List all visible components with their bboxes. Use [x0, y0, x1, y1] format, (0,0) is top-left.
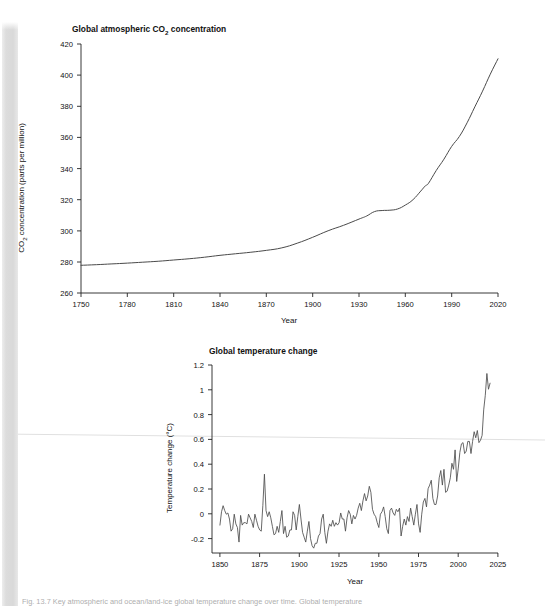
- chart-co2-xlabel: Year: [281, 316, 298, 325]
- x-tick-1810: 1810: [165, 300, 182, 309]
- chart-temp-x-tick-labels: 1850 1875 1900 1925 1950 1975 2000 2025: [211, 560, 506, 569]
- y-tick-300: 300: [60, 227, 73, 236]
- x-tick-2020: 2020: [490, 300, 507, 309]
- chart-temp-y-tick-labels: 1.2 1 0.8 0.6 0.4 0.2 0 -0.2: [191, 361, 204, 544]
- x-tick-1925: 1925: [331, 560, 348, 569]
- y-tick-340: 340: [60, 165, 73, 174]
- chart-temp-y-ticks: [208, 365, 212, 539]
- chart-temp-ylabel: Temperature change (°C): [165, 423, 174, 513]
- figure-caption: Fig. 13.7 Key atmospheric and ocean/land…: [22, 598, 522, 606]
- y-tick-1p2: 1.2: [193, 361, 204, 370]
- chart-co2-title: Global atmospheric CO2 concentration: [72, 24, 226, 36]
- y-tick-0p0: 0: [200, 510, 204, 519]
- chart-co2-y-ticks: [77, 44, 81, 293]
- x-tick-1990: 1990: [443, 300, 460, 309]
- y-tick-320: 320: [60, 196, 73, 205]
- y-tick-420: 420: [60, 40, 73, 49]
- chart-co2-x-ticks: [81, 293, 498, 297]
- chart-co2-series-line: [81, 59, 498, 266]
- y-tick-1p0: 1: [200, 386, 204, 395]
- chart-temp-x-axis: 1850 1875 1900 1925 1950 1975 2000 2025 …: [211, 553, 506, 586]
- x-tick-2025: 2025: [489, 560, 506, 569]
- chart-temp-x-ticks: [220, 553, 498, 557]
- x-tick-1850: 1850: [211, 560, 228, 569]
- chart-co2-concentration: Global atmospheric CO2 concentration CO2…: [0, 18, 545, 328]
- y-tick-0p6: 0.6: [193, 435, 204, 444]
- x-tick-1900: 1900: [291, 560, 308, 569]
- y-tick-0p8: 0.8: [193, 411, 204, 420]
- chart-temperature-change: Global temperature change Temperature ch…: [150, 340, 545, 598]
- figure-caption-text: Fig. 13.7 Key atmospheric and ocean/land…: [22, 598, 522, 606]
- y-tick-260: 260: [60, 289, 73, 298]
- chart-co2-x-axis: 1750 1780 1810 1840 1870 1900 1930 1960 …: [73, 293, 507, 325]
- chart-temp-xlabel: Year: [347, 577, 364, 586]
- y-tick-0p4: 0.4: [193, 460, 204, 469]
- y-tick-360: 360: [60, 133, 73, 142]
- chart-co2-y-tick-labels: 420 400 380 360 340 320 300 280 260: [60, 40, 73, 298]
- page-canvas: Global atmospheric CO2 concentration CO2…: [0, 0, 545, 606]
- x-tick-1975: 1975: [410, 560, 427, 569]
- chart-temp-y-axis: 1.2 1 0.8 0.6 0.4 0.2 0 -0.2: [191, 361, 212, 553]
- y-tick-280: 280: [60, 258, 73, 267]
- x-tick-1960: 1960: [397, 300, 414, 309]
- y-tick-400: 400: [60, 71, 73, 80]
- x-tick-1780: 1780: [119, 300, 136, 309]
- y-tick-380: 380: [60, 102, 73, 111]
- x-tick-1840: 1840: [212, 300, 229, 309]
- chart-co2-y-axis: 420 400 380 360 340 320 300 280 260: [60, 40, 81, 298]
- chart-co2-ylabel: CO2 concentration (parts per million): [17, 123, 28, 253]
- x-tick-1900: 1900: [304, 300, 321, 309]
- y-tick-0p2: 0.2: [193, 485, 204, 494]
- chart-co2-x-tick-labels: 1750 1780 1810 1840 1870 1900 1930 1960 …: [73, 300, 507, 309]
- x-tick-1950: 1950: [370, 560, 387, 569]
- x-tick-1870: 1870: [258, 300, 275, 309]
- chart-temp-series-line: [220, 373, 490, 548]
- x-tick-1750: 1750: [73, 300, 90, 309]
- x-tick-1930: 1930: [351, 300, 368, 309]
- chart-temp-title: Global temperature change: [209, 346, 318, 356]
- x-tick-2000: 2000: [450, 560, 467, 569]
- x-tick-1875: 1875: [251, 560, 268, 569]
- y-tick-neg0p2: -0.2: [191, 535, 204, 544]
